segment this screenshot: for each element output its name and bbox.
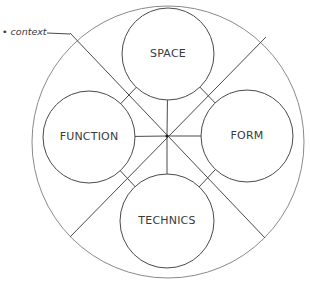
node-label-space: SPACE xyxy=(150,47,186,60)
connector-function-space xyxy=(119,86,137,105)
node-label-technics: TECHNICS xyxy=(137,214,195,227)
node-form: FORM xyxy=(201,90,293,182)
context-label: • context xyxy=(2,26,48,37)
connector-form-technics xyxy=(197,168,216,188)
center-hub xyxy=(165,134,168,137)
context-leader-line xyxy=(47,33,70,34)
node-function: FUNCTION xyxy=(43,91,135,183)
connector-technics-function xyxy=(119,170,136,189)
node-label-function: FUNCTION xyxy=(60,130,119,143)
connector-space-form xyxy=(199,86,217,105)
node-space: SPACE xyxy=(122,8,214,100)
node-technics: TECHNICS xyxy=(120,174,214,268)
context-diagram: • context SPACEFUNCTIONFORMTECHNICS xyxy=(0,0,310,284)
node-label-form: FORM xyxy=(231,129,264,142)
